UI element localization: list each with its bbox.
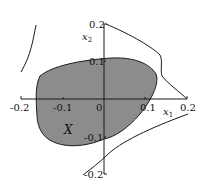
x-tick-label: -0.2 <box>10 102 29 113</box>
region-label: X <box>63 123 73 137</box>
diagram-canvas: -0.2 -0.1 0 0.1 0.2 0.2 0.1 -0.1 -0.2 x1… <box>0 0 205 187</box>
x-tick-label: 0 <box>96 102 102 113</box>
y-tick-label: 0.1 <box>89 56 105 67</box>
curve-upper-left <box>21 25 36 72</box>
x-axis-label: x1 <box>163 106 173 119</box>
y-tick-label: -0.1 <box>84 132 103 143</box>
x-tick-label: -0.1 <box>53 102 72 113</box>
x-tick-label: 0.2 <box>180 102 196 113</box>
y-tick-label: 0.2 <box>89 19 105 30</box>
y-tick-label: -0.2 <box>84 169 103 180</box>
x-tick-label: 0.1 <box>140 102 156 113</box>
y-axis-label: x2 <box>82 31 92 44</box>
